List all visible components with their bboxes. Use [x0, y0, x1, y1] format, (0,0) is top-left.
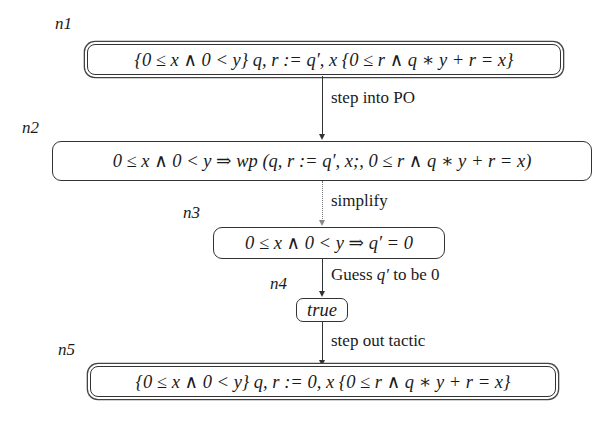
node-label-n4: n4: [270, 274, 287, 294]
arrowhead-icon: [319, 220, 325, 226]
node-label-n3: n3: [183, 203, 200, 223]
edge-n4-n5-line: [322, 322, 323, 361]
edge-n3-n4-line: [322, 259, 323, 292]
node-n4-text: true: [307, 300, 337, 321]
edge-label-guess-prefix: Guess: [331, 265, 377, 284]
node-n3-text: 0 ≤ x ∧ 0 < y ⇒ q′ = 0: [245, 232, 413, 254]
edge-label-guess-suffix: to be 0: [389, 265, 440, 284]
arrowhead-icon: [319, 291, 325, 297]
node-n1: {0 ≤ x ∧ 0 < y} q, r := q′, x {0 ≤ r ∧ q…: [87, 44, 561, 75]
edge-label-step-into-po: step into PO: [331, 88, 415, 108]
node-n1-text: {0 ≤ x ∧ 0 < y} q, r := q′, x {0 ≤ r ∧ q…: [135, 49, 514, 71]
node-n5: {0 ≤ x ∧ 0 < y} q, r := 0, x {0 ≤ r ∧ q …: [90, 366, 556, 397]
edge-label-guess-math: q′: [377, 265, 389, 284]
node-n5-text: {0 ≤ x ∧ 0 < y} q, r := 0, x {0 ≤ r ∧ q …: [136, 371, 511, 393]
node-n2-text: 0 ≤ x ∧ 0 < y ⇒ wp (q, r := q′, x;, 0 ≤ …: [113, 150, 532, 172]
edge-label-guess: Guess q′ to be 0: [331, 265, 440, 285]
node-label-n2: n2: [22, 118, 39, 138]
edge-label-step-out-tactic: step out tactic: [331, 331, 425, 351]
node-n2: 0 ≤ x ∧ 0 < y ⇒ wp (q, r := q′, x;, 0 ≤ …: [52, 141, 592, 181]
edge-n1-n2-line: [322, 76, 323, 134]
node-n3: 0 ≤ x ∧ 0 < y ⇒ q′ = 0: [213, 227, 445, 259]
arrowhead-icon: [319, 134, 325, 140]
edge-label-simplify: simplify: [331, 191, 388, 211]
node-label-n1: n1: [55, 14, 72, 34]
node-label-n5: n5: [58, 340, 75, 360]
edge-n2-n3-line: [322, 181, 323, 221]
node-n4: true: [296, 298, 348, 322]
